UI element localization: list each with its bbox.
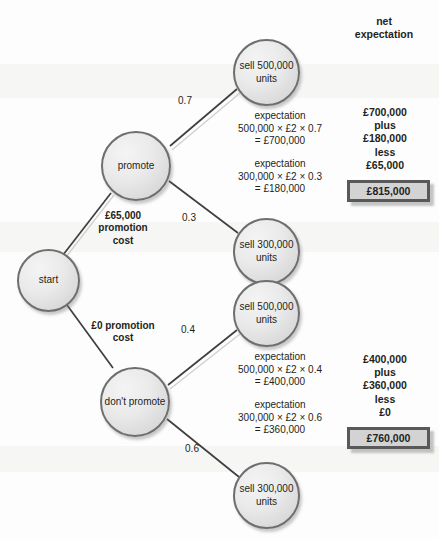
net-expectation-total-dont-promote-value: £760,000: [367, 432, 411, 444]
decision-tree-figure: start promote don't promote sell 500,000…: [0, 0, 439, 539]
node-start-label: start: [39, 274, 58, 286]
label-promotion-cost: £65,000 promotion cost: [73, 210, 173, 247]
node-promote-sell-500k[interactable]: sell 500,000 units: [233, 39, 300, 106]
probability-promote-sell-500k: 0.7: [172, 95, 198, 106]
node-dont-promote-sell-500k-label: sell 500,000 units: [235, 301, 298, 325]
node-dont-promote[interactable]: don't promote: [100, 367, 170, 437]
expectation-promote-sell-300k: expectation 300,000 × £2 × 0.3 = £180,00…: [215, 158, 345, 196]
expectation-promote-sell-500k: expectation 500,000 × £2 × 0.7 = £700,00…: [215, 110, 345, 148]
node-dont-promote-label: don't promote: [105, 396, 166, 408]
column-header-net-expectation: net expectation: [330, 15, 438, 40]
node-dont-promote-sell-300k-label: sell 300,000 units: [235, 483, 298, 507]
node-promote-sell-300k-label: sell 300,000 units: [235, 239, 298, 263]
node-promote-label: promote: [118, 160, 155, 172]
node-start[interactable]: start: [17, 249, 80, 312]
node-dont-promote-sell-300k[interactable]: sell 300,000 units: [233, 462, 300, 529]
node-promote-sell-300k[interactable]: sell 300,000 units: [233, 218, 300, 285]
node-dont-promote-sell-500k[interactable]: sell 500,000 units: [233, 280, 300, 347]
label-zero-promotion-cost: £0 promotion cost: [62, 320, 184, 345]
net-expectation-total-dont-promote-box: £760,000: [347, 427, 430, 449]
net-expectation-total-promote-value: £815,000: [367, 185, 411, 197]
probability-dont-promote-sell-300k: 0.6: [179, 443, 205, 454]
net-expectation-breakdown-dont-promote: £400,000 plus £360,000 less £0: [333, 353, 437, 419]
probability-promote-sell-300k: 0.3: [176, 212, 202, 223]
expectation-dont-promote-sell-300k: expectation 300,000 × £2 × 0.6 = £360,00…: [215, 399, 345, 437]
expectation-dont-promote-sell-500k: expectation 500,000 × £2 × 0.4 = £400,00…: [215, 351, 345, 389]
node-promote[interactable]: promote: [101, 131, 171, 201]
net-expectation-breakdown-promote: £700,000 plus £180,000 less £65,000: [333, 106, 437, 172]
probability-dont-promote-sell-500k: 0.4: [175, 324, 201, 335]
net-expectation-total-promote-box: £815,000: [347, 180, 430, 202]
node-promote-sell-500k-label: sell 500,000 units: [235, 60, 298, 84]
